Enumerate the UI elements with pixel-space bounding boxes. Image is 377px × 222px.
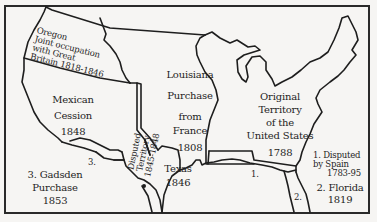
us-territorial-map: Oregon Joint occupation with Great Brita… bbox=[0, 0, 377, 222]
mexican-line-2: Cession bbox=[38, 108, 108, 124]
texas-line-2: 1846 bbox=[158, 176, 198, 190]
original-line-5: 1788 bbox=[236, 146, 324, 159]
original-line-4: United States bbox=[236, 129, 324, 142]
gadsden-line-2: Purchase bbox=[22, 181, 88, 194]
legend1-line-3: 1783-95 bbox=[313, 169, 361, 178]
original-line-2: Territory bbox=[236, 103, 324, 116]
legend-disputed-by-spain: 1. Disputed by Spain 1783-95 bbox=[313, 151, 361, 178]
louisiana-line-2: Purchase bbox=[140, 85, 240, 106]
region-label-original-territory: Original Territory of the United States … bbox=[236, 90, 324, 159]
legend2-line-2: 1819 bbox=[314, 194, 366, 206]
marker-3: 3. bbox=[88, 158, 96, 167]
gadsden-line-3: 1853 bbox=[22, 194, 88, 207]
mexican-line-1: Mexican bbox=[38, 92, 108, 108]
legend-florida: 2. Florida 1819 bbox=[314, 182, 366, 206]
marker-1: 1. bbox=[251, 170, 259, 179]
region-label-texas: Texas 1846 bbox=[158, 162, 198, 190]
original-line-3: of the bbox=[236, 116, 324, 129]
texas-line-1: Texas bbox=[158, 162, 198, 176]
gadsden-line-1: 3. Gadsden bbox=[22, 168, 88, 181]
louisiana-line-1: Louisiana bbox=[140, 64, 240, 85]
mexican-line-3: 1848 bbox=[38, 124, 108, 140]
region-label-mexican-cession: Mexican Cession 1848 bbox=[38, 92, 108, 140]
original-line-1: Original bbox=[236, 90, 324, 103]
marker-2: 2. bbox=[294, 193, 302, 202]
region-label-gadsden: 3. Gadsden Purchase 1853 bbox=[22, 168, 88, 207]
legend2-line-1: 2. Florida bbox=[314, 182, 366, 194]
